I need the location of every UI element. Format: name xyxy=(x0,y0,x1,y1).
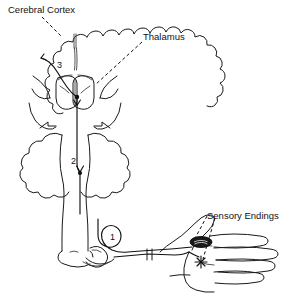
spinal-cord-outline xyxy=(58,246,114,267)
label-thalamus: Thalamus xyxy=(143,31,185,42)
brainstem-outline xyxy=(60,135,90,251)
figure-canvas: Cerebral Cortex Thalamus Sensory Endings… xyxy=(0,0,296,303)
sensory-pathway-figure: Cerebral Cortex Thalamus Sensory Endings… xyxy=(0,0,296,303)
label-cerebral-cortex: Cerebral Cortex xyxy=(8,4,75,15)
leader-line-thalamus xyxy=(95,42,142,85)
label-sensory-endings: Sensory Endings xyxy=(207,210,279,221)
hand-outline xyxy=(160,215,278,292)
label-neuron-1: 1 xyxy=(110,232,115,242)
neuron-1-first-order xyxy=(77,166,193,252)
leader-line-cerebral-cortex xyxy=(42,17,62,37)
label-neuron-2: 2 xyxy=(71,156,76,166)
label-neuron-3: 3 xyxy=(57,60,62,70)
